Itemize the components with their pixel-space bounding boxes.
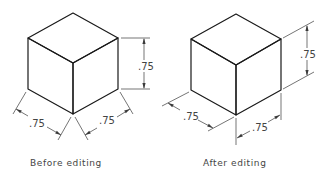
arrow-icon bbox=[124, 109, 130, 113]
right-caption: After editing bbox=[203, 158, 266, 168]
right-rightwidth-dimension: .75 bbox=[236, 93, 281, 145]
right-leftwidth-label: .75 bbox=[183, 111, 199, 122]
arrow-icon bbox=[237, 134, 243, 138]
right-height-dimension: .75 bbox=[283, 21, 316, 89]
arrow-icon bbox=[142, 38, 145, 44]
arrow-icon bbox=[16, 109, 22, 113]
left-cube-right-face bbox=[73, 38, 118, 114]
arrow-icon bbox=[142, 83, 145, 89]
left-leftwidth-label: .75 bbox=[29, 118, 45, 129]
arrow-icon bbox=[207, 124, 213, 128]
left-rightwidth-dimension: .75 bbox=[75, 92, 133, 140]
right-rightwidth-label: .75 bbox=[252, 122, 268, 133]
arrow-icon bbox=[274, 115, 280, 119]
left-cube bbox=[28, 13, 118, 114]
right-cube-top-face bbox=[191, 14, 281, 65]
left-height-dimension: .75 bbox=[121, 38, 154, 89]
left-cube-top-face bbox=[28, 13, 118, 63]
arrow-icon bbox=[85, 131, 91, 135]
arrow-icon bbox=[305, 25, 308, 31]
right-cube bbox=[191, 14, 281, 115]
left-height-label: .75 bbox=[138, 61, 154, 72]
arrow-icon bbox=[55, 131, 61, 135]
right-height-label: .75 bbox=[300, 49, 316, 60]
left-cube-left-face bbox=[28, 38, 73, 114]
right-cube-right-face bbox=[236, 39, 281, 115]
arrow-icon bbox=[168, 103, 174, 107]
left-caption: Before editing bbox=[30, 158, 102, 168]
right-cube-left-face bbox=[191, 39, 236, 115]
drawing-canvas: .75 .75 .75 .75 bbox=[0, 0, 322, 178]
left-rightwidth-label: .75 bbox=[99, 115, 115, 126]
right-leftwidth-dimension: .75 bbox=[162, 92, 234, 131]
left-leftwidth-dimension: .75 bbox=[13, 92, 71, 140]
